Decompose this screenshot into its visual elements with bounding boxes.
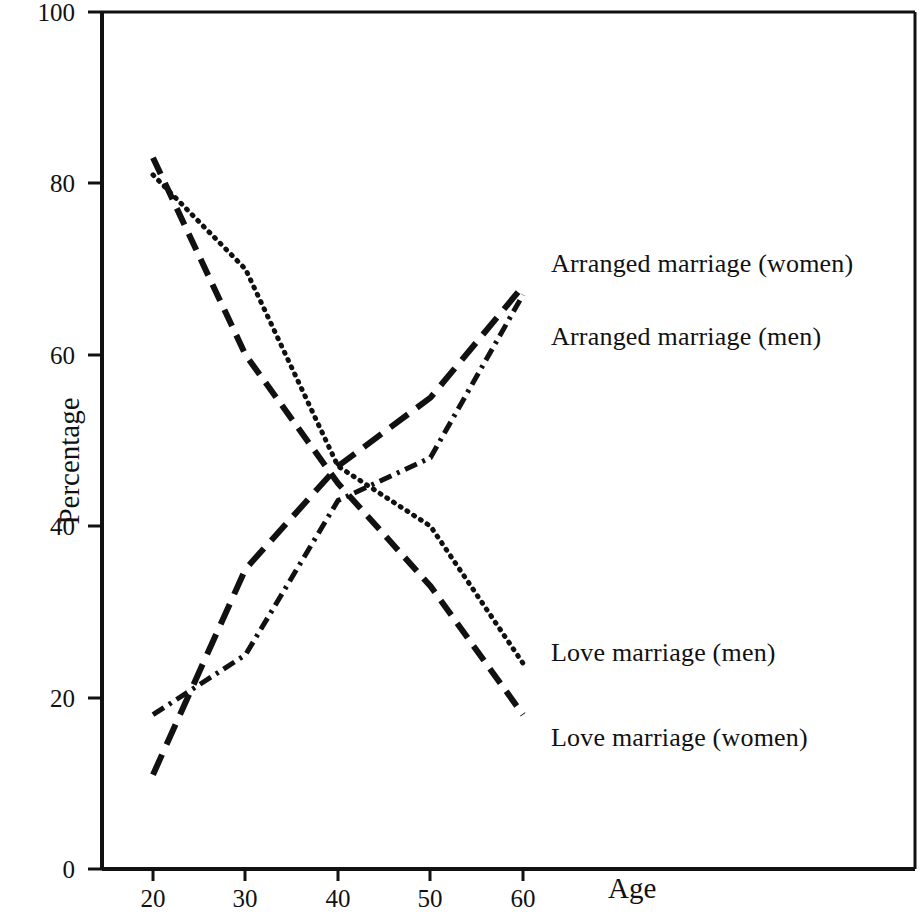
series-line-love-marriage-men — [153, 175, 523, 664]
line-chart-canvas — [0, 0, 924, 921]
x-tick-label-40: 40 — [326, 886, 351, 911]
series-label-love-marriage-men: Love marriage (men) — [551, 638, 776, 668]
series-label-arranged-marriage-women: Arranged marriage (women) — [551, 249, 853, 279]
y-tick-label-0: 0 — [10, 857, 75, 882]
y-tick-label-20: 20 — [10, 686, 75, 711]
y-tick-label-80: 80 — [10, 171, 75, 196]
chart-page: 100 80 60 40 20 0 20 30 40 50 60 Percent… — [0, 0, 924, 921]
y-axis-title: Percentage — [53, 397, 86, 524]
x-tick-label-20: 20 — [141, 886, 166, 911]
series-lines — [153, 158, 523, 775]
series-line-love-marriage-women — [153, 158, 523, 715]
y-tick-label-100: 100 — [10, 0, 75, 25]
x-tick-label-50: 50 — [418, 886, 443, 911]
series-label-arranged-marriage-men: Arranged marriage (men) — [551, 322, 821, 352]
x-axis-title: Age — [608, 872, 656, 905]
x-tick-label-30: 30 — [233, 886, 258, 911]
series-line-arranged-marriage-men — [153, 286, 523, 775]
series-label-love-marriage-women: Love marriage (women) — [551, 723, 808, 753]
y-tick-marks — [88, 12, 102, 869]
y-tick-label-60: 60 — [10, 343, 75, 368]
x-tick-label-60: 60 — [511, 886, 536, 911]
